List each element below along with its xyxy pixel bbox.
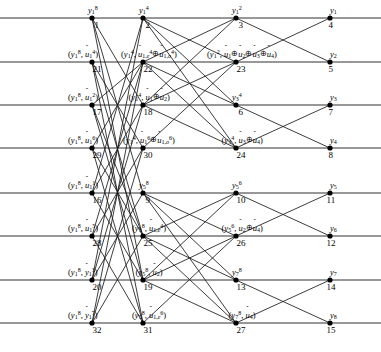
node-label: y12 [232, 5, 242, 15]
graph-edges-layer [0, 0, 381, 352]
node-label: (y14, ˆu1,e4⊕ˆu1,o4) [121, 49, 177, 59]
node-number: 25 [144, 239, 153, 248]
node-label: y56 [232, 180, 242, 190]
node-number: 23 [237, 65, 246, 74]
graph-node[interactable] [140, 15, 145, 20]
node-label: (y18, ˆu15) [68, 223, 98, 233]
node-number: 29 [93, 151, 102, 160]
node-label: (y12, ˆu1⊕ˆu2⊕ˆu3⊕ˆu4) [207, 49, 277, 59]
node-label: (y18, ˆu12) [68, 92, 98, 102]
node-label: (y56, ˆu2⊕ˆu4) [222, 223, 263, 233]
node-number: 30 [144, 151, 153, 160]
node-label: (y78, ˆu4) [229, 310, 256, 320]
node-label: (y58, ˆu1,e6) [132, 310, 166, 320]
node-number: 8 [329, 151, 334, 160]
node-number: 10 [237, 196, 246, 205]
node-number: 28 [93, 239, 102, 248]
node-label: y18 [88, 5, 98, 15]
node-label: (y18, ˆu14) [68, 49, 98, 59]
node-number: 22 [144, 65, 153, 74]
node-label: (y58, ˆu1,e4) [132, 223, 166, 233]
node-label: y6 [330, 224, 337, 233]
node-number: 18 [144, 108, 153, 117]
node-number: 14 [327, 283, 336, 292]
node-label: (y14, ˆu1⊕ˆu2) [129, 92, 170, 102]
node-number: 13 [237, 283, 246, 292]
node-number: 16 [93, 196, 102, 205]
node-number: 12 [327, 239, 336, 248]
graph-node[interactable] [89, 15, 94, 20]
factor-graph-figure: y181(y18, ˆu14)21(y18, ˆu12)17(y18, ˆu16… [0, 0, 381, 352]
node-label: y5 [330, 181, 337, 190]
node-label: (y18, ˆy17) [68, 310, 98, 320]
graph-node[interactable] [233, 102, 238, 107]
node-number: 27 [237, 326, 246, 335]
node-label: y1 [330, 6, 337, 15]
node-label: (y58, ˆu2) [136, 267, 163, 277]
node-number: 24 [237, 151, 246, 160]
graph-node[interactable] [140, 190, 145, 195]
node-number: 3 [239, 21, 244, 30]
node-number: 5 [329, 65, 334, 74]
node-number: 32 [93, 326, 102, 335]
node-number: 20 [93, 283, 102, 292]
node-number: 31 [144, 326, 153, 335]
node-number: 1 [95, 21, 100, 30]
node-label: (y18, ˆy13) [68, 267, 98, 277]
node-label: (y18, ˆu11) [68, 180, 98, 190]
node-label: y7 [330, 268, 337, 277]
graph-edge [92, 105, 143, 236]
node-label: (y34, ˆu3⊕ˆu4) [222, 135, 263, 145]
node-number: 26 [237, 239, 246, 248]
node-label: (y18, ˆu16) [68, 135, 98, 145]
node-number: 15 [327, 326, 336, 335]
graph-node[interactable] [233, 15, 238, 20]
node-number: 6 [239, 108, 244, 117]
node-number: 9 [146, 196, 151, 205]
node-label: (y14, ˆu16⊕ˆu1,o6) [123, 135, 175, 145]
node-label: y3 [330, 93, 337, 102]
node-label: y34 [232, 92, 242, 102]
node-number: 17 [93, 108, 102, 117]
node-number: 7 [329, 108, 334, 117]
node-number: 2 [146, 21, 151, 30]
node-label: y2 [330, 50, 337, 59]
node-number: 21 [93, 65, 102, 74]
node-label: y14 [139, 5, 149, 15]
node-label: y78 [232, 267, 242, 277]
graph-edge [143, 18, 236, 148]
node-number: 19 [144, 283, 153, 292]
node-label: y4 [330, 136, 337, 145]
node-number: 4 [329, 21, 334, 30]
node-number: 11 [327, 196, 336, 205]
node-label: y8 [330, 311, 337, 320]
node-label: y58 [139, 180, 149, 190]
